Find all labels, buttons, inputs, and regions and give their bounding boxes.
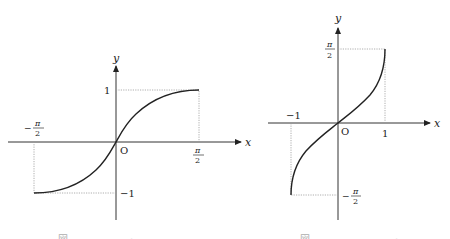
right-tick-neg-pi-over-2: − π 2 — [342, 187, 361, 206]
svg-text:2: 2 — [327, 51, 332, 60]
left-origin-label: O — [120, 145, 128, 156]
figure-canvas: x y O 1 −1 π 2 − π 2 x y O 1 −1 — [0, 0, 450, 239]
svg-text:π: π — [352, 187, 359, 196]
left-plot: x y O 1 −1 π 2 − π 2 — [8, 52, 252, 220]
left-x-label: x — [245, 136, 252, 149]
left-guide-positive — [116, 90, 199, 142]
right-x-label: x — [434, 117, 441, 130]
svg-text:π: π — [34, 119, 41, 128]
svg-text:−: − — [342, 191, 350, 201]
left-caption-tail-text: . — [130, 231, 133, 239]
right-guide-negative — [291, 123, 338, 195]
right-tick-1: 1 — [382, 128, 388, 139]
left-caption: 図 — [58, 231, 68, 239]
right-caption-tail-text: . — [395, 231, 398, 239]
right-y-label: y — [334, 12, 342, 25]
right-guide-positive — [338, 49, 385, 123]
left-caption-tail: . — [130, 231, 133, 239]
right-tick-pi-over-2: π 2 — [325, 40, 335, 60]
right-caption: 図 — [300, 231, 310, 239]
svg-text:2: 2 — [195, 156, 200, 165]
left-y-label: y — [112, 52, 120, 65]
svg-text:2: 2 — [353, 197, 358, 206]
left-guide-negative — [34, 142, 116, 193]
left-tick-pi-over-2: π 2 — [193, 146, 204, 165]
left-caption-text: 図 — [58, 234, 68, 239]
right-plot: x y O 1 −1 π 2 − π 2 — [268, 12, 441, 220]
right-caption-text: 図 — [300, 234, 310, 239]
svg-text:π: π — [194, 146, 201, 155]
right-origin-label: O — [341, 126, 349, 137]
svg-text:−: − — [24, 123, 32, 133]
left-tick-neg-pi-over-2: − π 2 — [24, 119, 44, 138]
right-caption-tail: . — [395, 231, 398, 239]
svg-text:2: 2 — [35, 129, 40, 138]
svg-text:π: π — [326, 40, 333, 49]
left-tick-neg1: −1 — [120, 188, 135, 199]
left-tick-1: 1 — [104, 85, 110, 96]
right-tick-neg1: −1 — [286, 110, 301, 121]
